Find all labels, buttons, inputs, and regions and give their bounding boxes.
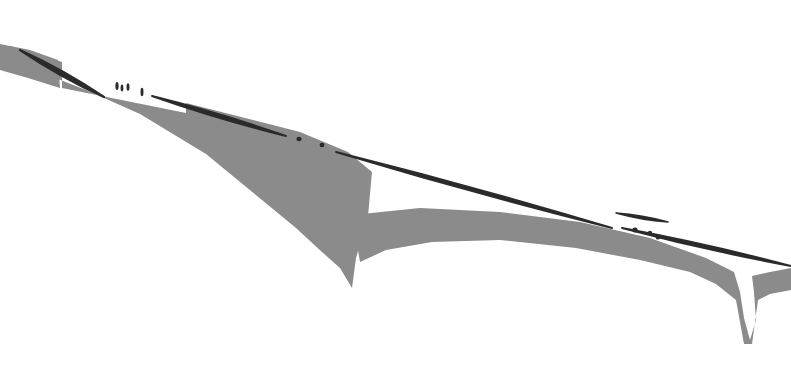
figure-dot-6 [320, 143, 325, 147]
figure-dot-2 [121, 85, 124, 92]
figure-dot-3 [127, 83, 130, 91]
figure-dot-7 [632, 228, 637, 233]
figure-dot-5 [296, 137, 301, 141]
figure-dot-1 [115, 82, 118, 90]
artboard: Abstract Ridge Landscape Minimalist mono… [0, 0, 791, 385]
illustration-canvas [0, 0, 791, 385]
background-rect [0, 0, 791, 385]
figure-dot-4 [141, 88, 144, 96]
figure-dot-8 [648, 231, 652, 235]
figure-dot-9 [656, 234, 661, 239]
